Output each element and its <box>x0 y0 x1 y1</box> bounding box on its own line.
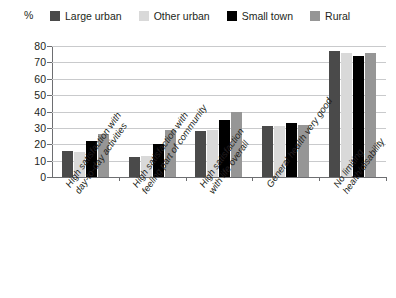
y-axis-tick-label: 10 <box>22 156 46 166</box>
legend-swatch-small-town <box>227 11 237 21</box>
y-axis-tick-label: 40 <box>22 107 46 117</box>
y-axis-tick-label: 30 <box>22 123 46 133</box>
legend-swatch-other-urban <box>139 11 149 21</box>
legend-item: Other urban <box>139 11 210 22</box>
bar-group <box>252 46 319 177</box>
legend-item: Small town <box>227 11 293 22</box>
legend-item-label: Rural <box>325 11 350 22</box>
y-axis-unit-label: % <box>24 9 33 21</box>
x-axis-tick <box>386 177 387 181</box>
bar <box>153 144 164 177</box>
legend-swatch-rural <box>310 11 320 21</box>
bar-group <box>52 46 119 177</box>
x-axis-tick <box>186 177 187 181</box>
bar-series-container <box>52 46 386 177</box>
gridline <box>52 177 386 178</box>
chart-legend: Large urbanOther urbanSmall townRural <box>50 8 396 24</box>
bar <box>98 134 109 177</box>
y-axis-tick <box>47 177 52 178</box>
x-axis-tick <box>119 177 120 181</box>
bar <box>365 53 376 177</box>
bar <box>165 130 176 177</box>
bar <box>86 141 97 177</box>
bar <box>353 56 364 177</box>
bar <box>329 51 340 177</box>
x-axis-tick <box>319 177 320 181</box>
legend-item-label: Small town <box>242 11 293 22</box>
bar <box>298 125 309 177</box>
bar <box>231 112 242 178</box>
y-axis-tick-label: 20 <box>22 139 46 149</box>
legend-item: Rural <box>310 11 350 22</box>
y-axis-tick-label: 80 <box>22 41 46 51</box>
y-axis-tick-label: 60 <box>22 74 46 84</box>
y-axis-tick-labels: 80706050403020100 <box>16 46 46 177</box>
plot-area <box>52 46 386 177</box>
bar <box>141 156 152 177</box>
legend-swatch-large-urban <box>50 11 60 21</box>
bar <box>74 152 85 177</box>
y-axis-tick-label: 50 <box>22 90 46 100</box>
legend-item-label: Large urban <box>65 11 122 22</box>
bar <box>286 123 297 177</box>
bar-group <box>319 46 386 177</box>
legend-item: Large urban <box>50 11 122 22</box>
bar <box>262 126 273 177</box>
bar-group <box>119 46 186 177</box>
bar <box>207 130 218 177</box>
bar <box>129 157 140 177</box>
bar <box>341 53 352 177</box>
legend-item-label: Other urban <box>154 11 210 22</box>
x-axis-tick <box>252 177 253 181</box>
bar <box>274 126 285 177</box>
bar <box>219 120 230 177</box>
bar <box>62 151 73 177</box>
y-axis-tick-label: 70 <box>22 57 46 67</box>
y-axis-tick-label: 0 <box>22 172 46 182</box>
bar <box>195 131 206 177</box>
bar-group <box>186 46 253 177</box>
